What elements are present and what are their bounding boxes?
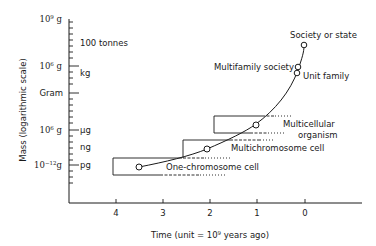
y-left-labels: 109 g 106 g Gram 106 g 10−12g <box>34 14 63 170</box>
label-one-chromosome: One-chromosome cell <box>166 162 259 172</box>
label-multichromosome: Multichromosome cell <box>231 143 324 153</box>
point-multichromosome <box>204 146 210 152</box>
y-unit-microgram: μg <box>80 125 91 135</box>
point-unit-family <box>294 70 300 76</box>
point-labels: Society or state Multifamily society Uni… <box>166 30 357 172</box>
y-label-10e-12g: 10−12g <box>34 160 62 170</box>
x-axis-label: Time (unit = 109 years ago) <box>150 230 269 240</box>
y-unit-picogram: pg <box>80 160 91 170</box>
y-label-10e6g-micro: 106 g <box>40 125 63 135</box>
point-multifamily <box>295 64 301 70</box>
label-unit-family: Unit family <box>303 71 349 81</box>
label-multicellular-1: Multicellular <box>283 119 335 129</box>
evolution-mass-diagram: 4 3 2 1 0 Time (unit = 109 years ago) Ma… <box>0 0 376 246</box>
x-tick-0: 0 <box>302 208 307 218</box>
y-label-gram: Gram <box>39 88 63 98</box>
point-one-chromosome <box>136 164 142 170</box>
label-multifamily: Multifamily society <box>214 62 294 72</box>
y-label-10e6g: 106 g <box>40 61 63 71</box>
y-ticks <box>69 22 79 183</box>
y-unit-kg: kg <box>80 68 90 78</box>
x-tick-3: 3 <box>160 208 165 218</box>
y-unit-labels: 100 tonnes kg μg ng pg <box>80 38 128 170</box>
y-axis-label: Mass (logarithmic scale) <box>18 58 28 161</box>
point-multicellular <box>253 122 259 128</box>
y-unit-100-tonnes: 100 tonnes <box>80 38 128 48</box>
x-tick-1: 1 <box>254 208 259 218</box>
point-society <box>301 42 307 48</box>
x-tick-4: 4 <box>113 208 118 218</box>
label-society: Society or state <box>290 30 357 40</box>
y-label-10e9g: 109 g <box>40 14 63 24</box>
x-tick-2: 2 <box>207 208 212 218</box>
label-multicellular-2: organism <box>298 130 338 140</box>
y-unit-nanogram: ng <box>80 142 91 152</box>
x-tick-labels: 4 3 2 1 0 <box>113 208 307 218</box>
x-ticks <box>116 199 305 203</box>
